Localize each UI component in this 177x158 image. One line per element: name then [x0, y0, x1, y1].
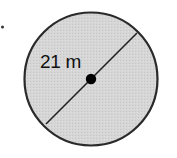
circle-figure [0, 0, 177, 158]
center-point [86, 74, 96, 84]
bullet-marker [1, 26, 4, 29]
diagram-canvas: 21 m [0, 0, 177, 158]
diameter-label: 21 m [40, 52, 81, 71]
